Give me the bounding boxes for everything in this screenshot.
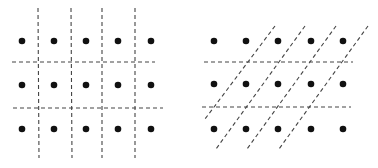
lattice-point: [51, 126, 58, 133]
lattice-point: [243, 81, 250, 88]
lattice-point: [115, 38, 122, 45]
lattice-point: [148, 82, 155, 89]
dashed-partition-line: [38, 8, 39, 158]
lattice-point: [19, 82, 26, 89]
lattice-point: [83, 38, 90, 45]
dashed-partition-line: [71, 8, 72, 158]
lattice-figure: [0, 0, 378, 168]
lattice-point: [211, 81, 218, 88]
lattice-point: [340, 126, 347, 133]
oblique-lattice-panel: [202, 26, 368, 149]
lattice-point: [211, 126, 218, 133]
lattice-point: [275, 126, 282, 133]
lattice-point: [211, 38, 218, 45]
rectangular-lattice-panel: [12, 8, 163, 158]
lattice-point: [308, 126, 315, 133]
lattice-point: [308, 38, 315, 45]
lattice-point: [83, 126, 90, 133]
lattice-point: [115, 126, 122, 133]
lattice-point: [340, 81, 347, 88]
lattice-point: [243, 126, 250, 133]
lattice-point: [19, 126, 26, 133]
lattice-point: [83, 82, 90, 89]
lattice-point: [148, 38, 155, 45]
lattice-point: [243, 38, 250, 45]
lattice-point: [308, 81, 315, 88]
lattice-point: [148, 126, 155, 133]
lattice-point: [115, 82, 122, 89]
lattice-point: [51, 38, 58, 45]
lattice-point: [19, 38, 26, 45]
lattice-point: [340, 38, 347, 45]
lattice-point: [275, 38, 282, 45]
lattice-point: [275, 81, 282, 88]
dashed-partition-line: [279, 26, 368, 149]
lattice-point: [51, 82, 58, 89]
